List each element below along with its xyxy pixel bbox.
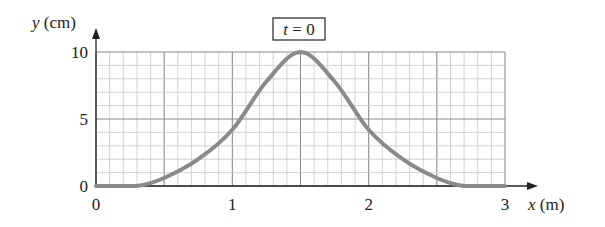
- x-axis-label: x (m): [527, 195, 564, 214]
- y-axis-arrow-icon: [92, 28, 100, 39]
- x-axis-arrow-icon: [527, 182, 538, 190]
- y-tick-label: 5: [80, 110, 89, 129]
- y-tick-label: 10: [71, 43, 88, 62]
- x-tick-label: 2: [364, 195, 373, 214]
- x-tick-label: 0: [92, 195, 101, 214]
- x-tick-label: 1: [228, 195, 237, 214]
- time-label: t = 0: [283, 20, 314, 39]
- wave-pulse-chart: 01230510x (m)y (cm)t = 0: [0, 0, 605, 227]
- y-tick-label: 0: [80, 177, 89, 196]
- y-axis-label: y (cm): [30, 13, 76, 32]
- x-tick-label: 3: [501, 195, 510, 214]
